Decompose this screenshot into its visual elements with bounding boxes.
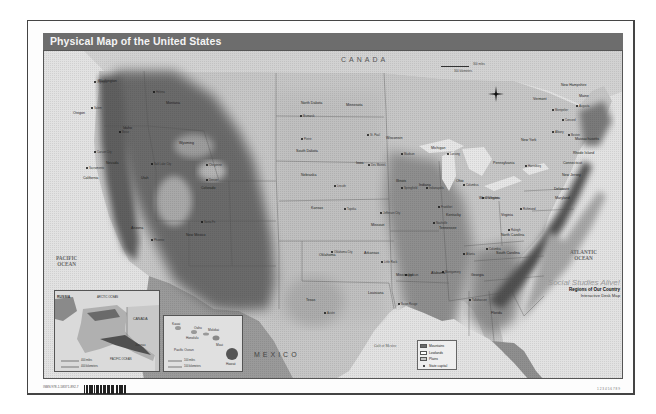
alaska-inset: RUSSIA CANADA ARCTIC OCEAN PACIFIC OCEAN… (54, 290, 160, 372)
capital-marker-icon (86, 167, 88, 169)
capital-marker-icon (520, 208, 522, 210)
capital-marker-icon (300, 115, 302, 117)
barcode-bar (121, 385, 122, 394)
capital-marker-icon (568, 134, 570, 136)
state-label: Oklahoma (319, 253, 335, 257)
state-label: Illinois (396, 179, 406, 183)
ocean-label-pacific: PACIFICOCEAN (56, 255, 77, 267)
capital-label: Pierre (304, 137, 311, 141)
capital-label: Augusta (579, 104, 589, 108)
state-label: California (83, 176, 98, 180)
capital-label: Olympia (97, 80, 107, 84)
barcode-bar (113, 385, 114, 394)
alaska-terrain (55, 291, 160, 372)
capital-label: Salt Lake City (154, 162, 171, 166)
scale-bar (441, 66, 469, 67)
hawaii-label-pacific: Pacific Ocean (174, 348, 194, 352)
capital-marker-icon (201, 221, 203, 223)
state-label: Louisiana (368, 291, 383, 295)
country-label-canada: CANADA (341, 56, 388, 63)
capital-label: Sacramento (89, 166, 104, 170)
capital-label: Richmond (523, 207, 536, 211)
capital-marker-icon (576, 105, 578, 107)
capital-marker-icon (552, 131, 554, 133)
capital-label: Nashville (436, 221, 447, 225)
capital-marker-icon (525, 165, 527, 167)
capital-marker-icon (438, 206, 440, 208)
swatch-lowlands (420, 351, 427, 355)
legend-item-capital: State capital (420, 363, 454, 370)
capital-marker-icon (368, 164, 370, 166)
capital-marker-icon (486, 248, 488, 250)
series-title: Social Studies Alive! (520, 278, 620, 287)
capital-label: Boise (122, 130, 129, 134)
capital-marker-icon (344, 208, 346, 210)
capital-label: Austin (327, 311, 335, 315)
alaska-label-juneau: Juneau (135, 343, 145, 347)
capital-label: Baton Rouge (401, 302, 417, 306)
capital-label: Lincoln (337, 184, 346, 188)
hawaii-label-hawaii: Hawaii (226, 362, 236, 366)
state-label: Montana (166, 101, 180, 105)
map-title: Physical Map of the United States (50, 34, 221, 49)
capital-label: Jackson (408, 273, 418, 277)
state-label: Arizona (131, 226, 143, 230)
state-label: Texas (306, 298, 315, 302)
capital-label: Columbus (466, 183, 479, 187)
capital-label: Atlanta (466, 252, 475, 256)
capital-label: Little Rock (384, 260, 397, 264)
alaska-label-canada: CANADA (133, 317, 148, 321)
state-label: Michigan (431, 146, 445, 150)
state-label: Oregon (73, 111, 85, 115)
capital-marker-icon (426, 187, 428, 189)
capital-marker-icon (401, 153, 403, 155)
state-label: New Jersey (562, 173, 581, 177)
barcode-bar (100, 385, 101, 394)
capital-label: Lansing (450, 152, 460, 156)
hawaii-label-honolulu: Honolulu (186, 336, 199, 340)
state-label: Pennsylvania (493, 161, 514, 165)
state-label: Nevada (106, 161, 118, 165)
barcode-bar (94, 385, 95, 394)
capital-marker-icon (331, 251, 333, 253)
page-code: 1 2 3 4 5 6 7 8 9 (597, 387, 620, 391)
capital-label: Montgomery (445, 270, 461, 274)
capital-marker-icon (433, 222, 435, 224)
capital-marker-icon (301, 138, 303, 140)
state-label: Missouri (371, 223, 384, 227)
capital-label: Concord (565, 118, 576, 122)
capital-label: Denver (209, 178, 218, 182)
hawaii-label-oahu: Oahu (194, 326, 202, 330)
capital-label: Charleston (485, 196, 499, 200)
state-label: Utah (141, 176, 149, 180)
capital-marker-icon (398, 303, 400, 305)
barcode (84, 385, 127, 394)
state-label: Kentucky (446, 213, 461, 217)
state-label: Florida (491, 311, 502, 315)
state-label: Wyoming (179, 141, 194, 145)
hawaii-label-molokai: Molokai (208, 328, 219, 332)
capital-label: Oklahoma City (334, 250, 352, 254)
hawaii-label-kauai: Kauai (172, 322, 180, 326)
capital-marker-icon (151, 239, 153, 241)
capital-label: Carson City (97, 150, 112, 154)
state-label: North Carolina (501, 233, 524, 237)
capital-marker-icon (508, 229, 510, 231)
capital-label: Columbia (489, 247, 501, 251)
capital-marker-icon (381, 261, 383, 263)
capital-label: Albany (555, 130, 564, 134)
capital-marker-icon (552, 109, 554, 111)
capital-label: Raleigh (511, 228, 521, 232)
capital-marker-icon (94, 151, 96, 153)
capital-marker-icon (380, 212, 382, 214)
state-label: Vermont (533, 97, 546, 101)
barcode-bar (108, 385, 109, 394)
state-label: Rhode Island (573, 151, 594, 155)
capital-label: Cheyenne (209, 163, 222, 167)
state-label: New York (521, 138, 536, 142)
capital-label: Salem (94, 106, 102, 110)
capital-label: Santa Fe (204, 220, 215, 224)
scale-miles: 300 miles (473, 62, 485, 66)
state-label: Massachusetts (575, 137, 599, 141)
alaska-scale-km: 400 kilometers (81, 365, 98, 369)
